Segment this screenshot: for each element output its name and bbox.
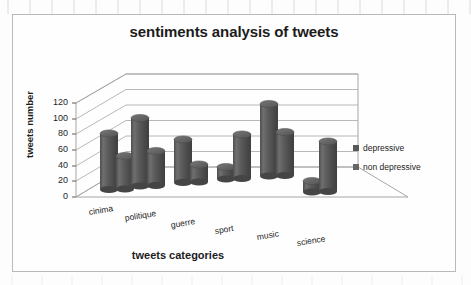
bar-guerre-non-depressive <box>190 161 208 186</box>
legend-item-non-depressive[interactable]: non depressive <box>353 162 449 172</box>
scan-artifact-bottom <box>0 275 471 285</box>
chart-frame: sentiments analysis of tweets <box>12 14 456 272</box>
y-tick-label-0: 0 <box>44 191 68 201</box>
scan-artifact-top <box>0 0 471 14</box>
bar-music-depressive <box>260 100 278 179</box>
x-axis-title: tweets categories <box>13 249 343 261</box>
chart-y-ticks <box>72 103 76 197</box>
bar-cinima-depressive <box>100 130 118 193</box>
y-tick-label-100: 100 <box>44 113 68 123</box>
chart-legend: depressive non depressive <box>353 143 449 181</box>
y-tick-label-40: 40 <box>44 160 68 170</box>
bar-guerre-depressive <box>174 136 192 186</box>
legend-label-depressive: depressive <box>363 143 404 153</box>
bar-sport-non-depressive <box>233 131 251 182</box>
y-tick-label-120: 120 <box>44 97 68 107</box>
bar-politique-depressive <box>131 114 149 189</box>
y-tick-label-20: 20 <box>44 175 68 185</box>
bar-science-non-depressive <box>319 138 337 195</box>
legend-swatch-icon <box>353 164 359 170</box>
bar-science-depressive <box>303 177 321 195</box>
y-tick-label-60: 60 <box>44 144 68 154</box>
plot-area: 120 100 80 60 40 20 0 tweets number cini… <box>13 15 457 273</box>
legend-swatch-icon <box>353 145 359 151</box>
bar-music-non-depressive <box>276 128 294 179</box>
y-tick-label-80: 80 <box>44 128 68 138</box>
legend-item-depressive[interactable]: depressive <box>353 143 449 153</box>
legend-label-non-depressive: non depressive <box>363 162 421 172</box>
bar-sport-depressive <box>217 163 235 182</box>
y-axis-title: tweets number <box>24 85 35 165</box>
page-background: sentiments analysis of tweets <box>0 0 471 285</box>
bar-politique-non-depressive <box>147 147 165 189</box>
